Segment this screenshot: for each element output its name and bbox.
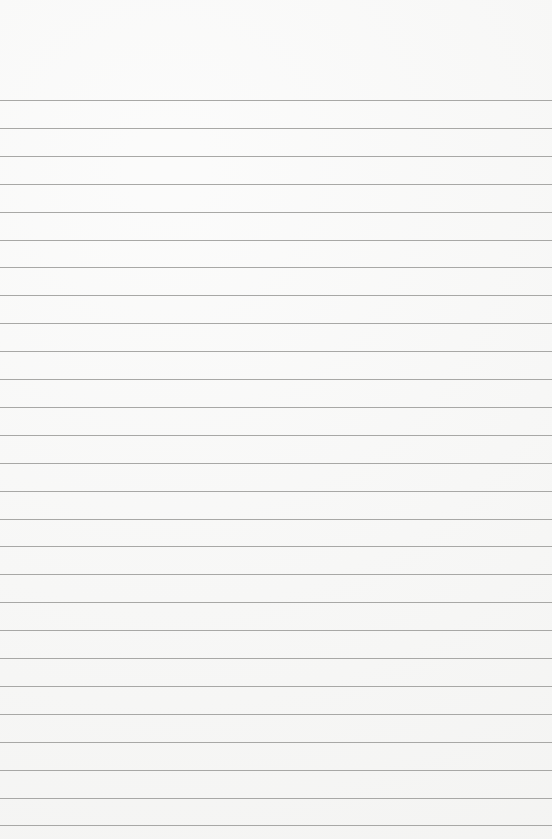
ruled-line [0, 212, 552, 213]
ruled-line [0, 156, 552, 157]
ruled-line [0, 825, 552, 826]
ruled-line [0, 323, 552, 324]
ruled-line [0, 630, 552, 631]
ruled-line [0, 686, 552, 687]
ruled-line [0, 574, 552, 575]
ruled-line [0, 379, 552, 380]
ruled-line [0, 742, 552, 743]
ruled-line [0, 295, 552, 296]
ruled-line [0, 714, 552, 715]
ruled-line [0, 519, 552, 520]
ruled-line [0, 100, 552, 101]
ruled-line [0, 546, 552, 547]
ruled-line [0, 435, 552, 436]
ruled-line [0, 491, 552, 492]
ruled-line [0, 267, 552, 268]
ruled-line [0, 798, 552, 799]
ruled-line [0, 351, 552, 352]
ruled-line [0, 602, 552, 603]
ruled-line [0, 240, 552, 241]
ruled-line [0, 128, 552, 129]
ruled-line [0, 184, 552, 185]
lined-paper-sheet [0, 0, 552, 839]
ruled-line [0, 770, 552, 771]
ruled-line [0, 407, 552, 408]
ruled-line [0, 463, 552, 464]
ruled-line [0, 658, 552, 659]
